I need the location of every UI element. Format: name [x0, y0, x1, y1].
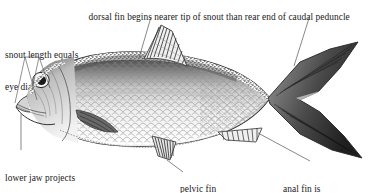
fish-identification-diagram: dorsal fin begins nearer tip of snout th…: [0, 0, 372, 193]
fish-body: [16, 25, 362, 160]
caudal-fin: [268, 42, 362, 158]
fish-head: [16, 57, 78, 143]
leader-anal-fin: [258, 133, 310, 161]
fish-drawing-layer: [0, 0, 372, 193]
leader-pelvic-fin: [167, 160, 183, 172]
